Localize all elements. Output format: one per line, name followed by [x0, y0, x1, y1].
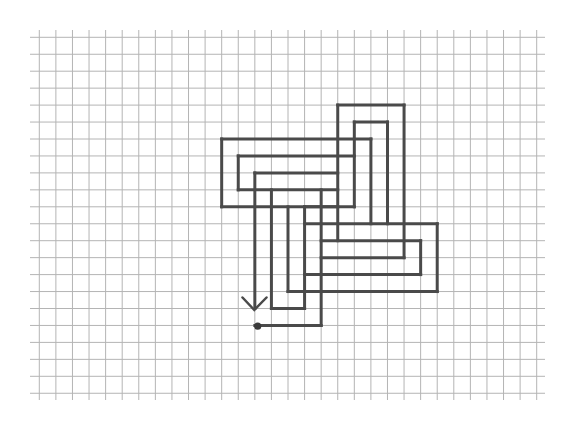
grid-diagram — [0, 0, 576, 429]
start-dot — [254, 323, 261, 330]
maze-path — [222, 105, 438, 325]
